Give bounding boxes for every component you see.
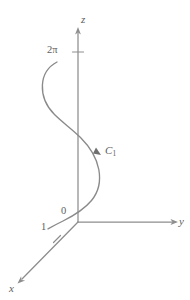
- curve-label-base: C: [105, 144, 112, 156]
- y-axis-label: y: [179, 216, 184, 227]
- origin-label: 0: [61, 206, 66, 217]
- curve-label-subscript: 1: [113, 149, 117, 158]
- coordinate-system-graphic: [0, 0, 190, 300]
- curve-direction-arrow: [93, 148, 101, 156]
- x-axis-label: x: [9, 283, 14, 294]
- x-axis-tick-label-1: 1: [41, 222, 46, 233]
- space-curve-c1: [42, 62, 99, 229]
- x-axis-line: [22, 222, 78, 279]
- curve-label-c1: C1: [105, 145, 116, 158]
- z-axis-tick-label-2pi: 2π: [47, 45, 58, 56]
- z-axis-label: z: [81, 14, 85, 25]
- figure-container: z y x 2π 0 1 C1: [0, 0, 190, 300]
